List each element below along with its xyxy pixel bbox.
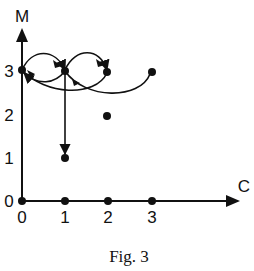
figure-caption: Fig. 3: [109, 247, 149, 266]
x-axis: [22, 195, 240, 207]
point-3-0: [148, 197, 156, 205]
y-axis-arrow-icon: [16, 28, 28, 42]
y-tick-1: 1: [4, 149, 13, 168]
point-2-3: [103, 68, 111, 76]
point-1-0: [61, 197, 69, 205]
y-tick-2: 2: [4, 106, 13, 125]
y-tick-3: 3: [4, 62, 13, 81]
x-axis-arrow-icon: [226, 195, 240, 207]
x-tick-2: 2: [103, 208, 112, 227]
x-tick-3: 3: [147, 208, 156, 227]
state-diagram: M C 3 2 1 0 0 1 2 3: [0, 0, 254, 271]
edge-0-3-to-1-3: [22, 54, 65, 71]
arrow-icon: [72, 79, 80, 86]
point-3-3: [148, 68, 156, 76]
point-0-3: [18, 66, 26, 74]
edge-1-3-to-2-3: [65, 53, 107, 70]
point-1-1: [61, 154, 69, 162]
y-tick-0: 0: [4, 192, 13, 211]
point-2-2: [103, 112, 111, 120]
point-0-0: [18, 197, 26, 205]
y-axis-label: M: [15, 7, 29, 26]
point-1-3: [61, 67, 69, 75]
y-axis: [16, 28, 28, 201]
arrow-icon: [53, 60, 62, 68]
x-tick-1: 1: [60, 208, 69, 227]
edges: [22, 53, 150, 154]
x-tick-0: 0: [17, 208, 26, 227]
point-2-0: [104, 197, 112, 205]
state-points: [18, 66, 156, 205]
x-axis-label: C: [238, 177, 250, 196]
